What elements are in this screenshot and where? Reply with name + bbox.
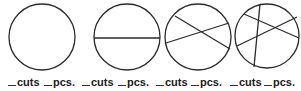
answer-labels-row: cuts pcs. cuts pcs. cuts pcs. cuts pcs. <box>0 75 301 91</box>
cuts-label-3: cuts <box>165 75 188 89</box>
pcs-label-1: pcs. <box>53 75 75 89</box>
cuts-answer-1[interactable]: cuts <box>8 75 40 89</box>
pcs-answer-3[interactable]: pcs. <box>191 75 222 89</box>
cuts-blank-3[interactable] <box>156 76 164 86</box>
pcs-blank-2[interactable] <box>118 76 126 86</box>
circle-3-outline <box>165 4 231 70</box>
cuts-answer-3[interactable]: cuts <box>156 75 188 89</box>
pcs-answer-2[interactable]: pcs. <box>118 75 149 89</box>
cuts-label-4: cuts <box>239 75 262 89</box>
circles-diagram <box>0 0 301 74</box>
circle-4 <box>235 4 299 68</box>
pcs-answer-4[interactable]: pcs. <box>264 75 295 89</box>
pcs-blank-1[interactable] <box>44 76 52 86</box>
circle-1-outline <box>9 4 75 70</box>
circle-4-cut-2 <box>244 14 299 38</box>
pcs-label-2: pcs. <box>127 75 149 89</box>
pcs-label-3: pcs. <box>200 75 222 89</box>
circle-2 <box>94 4 160 70</box>
pcs-blank-4[interactable] <box>264 76 272 86</box>
cuts-blank-2[interactable] <box>82 76 90 86</box>
cuts-label-1: cuts <box>17 75 40 89</box>
cuts-blank-4[interactable] <box>230 76 238 86</box>
cuts-blank-1[interactable] <box>8 76 16 86</box>
pcs-label-4: pcs. <box>273 75 295 89</box>
cuts-answer-2[interactable]: cuts <box>82 75 114 89</box>
circle-2-outline <box>94 4 160 70</box>
cuts-label-2: cuts <box>91 75 114 89</box>
circle-4-cut-3 <box>237 17 297 46</box>
circle-1 <box>9 4 75 70</box>
cuts-answer-4[interactable]: cuts <box>230 75 262 89</box>
pcs-answer-1[interactable]: pcs. <box>44 75 75 89</box>
circle-3 <box>165 4 231 70</box>
circle-3-cut-2 <box>166 23 229 43</box>
pcs-blank-3[interactable] <box>191 76 199 86</box>
circle-3-cut-1 <box>175 16 230 49</box>
